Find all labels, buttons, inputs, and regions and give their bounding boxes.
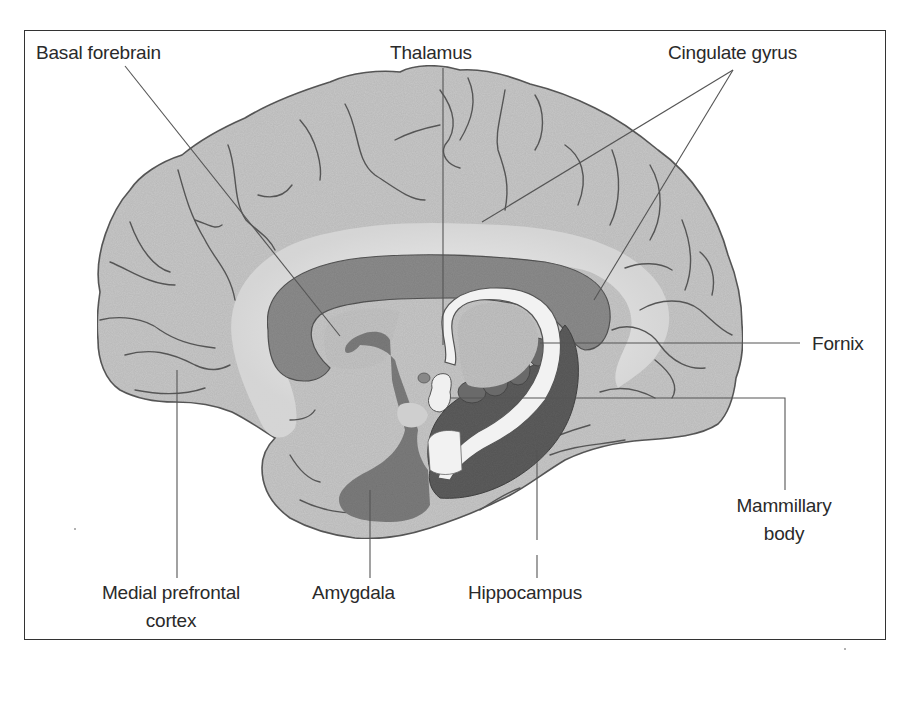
speck: [844, 648, 846, 650]
label-mammillary-body: Mammillary body: [724, 495, 844, 545]
speck: [74, 528, 76, 530]
label-fornix: Fornix: [812, 333, 864, 355]
limbic-system-diagram: Basal forebrain Thalamus Cingulate gyrus…: [0, 0, 903, 701]
label-hippocampus: Hippocampus: [468, 582, 582, 604]
label-mammillary-body-line1: Mammillary: [724, 495, 844, 517]
label-thalamus: Thalamus: [390, 42, 472, 64]
label-cingulate-gyrus: Cingulate gyrus: [668, 42, 797, 64]
label-medial-prefrontal-line1: Medial prefrontal: [78, 582, 264, 604]
label-medial-prefrontal-cortex: Medial prefrontal cortex: [78, 582, 264, 632]
label-amygdala: Amygdala: [312, 582, 395, 604]
label-mammillary-body-line2: body: [724, 523, 844, 545]
label-basal-forebrain: Basal forebrain: [36, 42, 161, 64]
label-medial-prefrontal-line2: cortex: [78, 610, 264, 632]
